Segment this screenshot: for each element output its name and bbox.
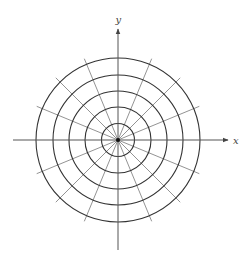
origin-point — [116, 138, 120, 142]
polar-grid-diagram: x y — [0, 0, 247, 261]
y-axis-label: y — [115, 14, 122, 25]
axes — [13, 29, 228, 250]
x-axis-label: x — [233, 135, 239, 146]
